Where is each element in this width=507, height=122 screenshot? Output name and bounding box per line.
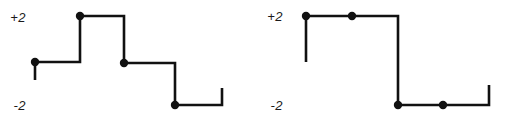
sample-dot — [394, 101, 402, 109]
sample-dot — [348, 12, 356, 20]
axis-label-minus-two-left: -2 — [13, 98, 26, 113]
sample-dot-group-left — [31, 12, 179, 109]
figure-canvas: +2 -2 +2 -2 — [0, 0, 507, 122]
sample-dot-group-right — [302, 12, 447, 109]
axis-label-plus-two-left: +2 — [10, 10, 26, 25]
sample-dot — [31, 58, 39, 66]
sample-dot — [120, 59, 128, 67]
waveform-diagram: +2 -2 +2 -2 — [0, 0, 507, 122]
axis-label-plus-two-right: +2 — [267, 9, 283, 24]
sample-dot — [76, 12, 84, 20]
staircase-path-left — [35, 16, 222, 105]
sample-dot — [171, 101, 179, 109]
staircase-path-right — [306, 16, 489, 105]
sample-dot — [302, 12, 310, 20]
axis-label-minus-two-right: -2 — [270, 98, 283, 113]
panel-right-waveform: +2 -2 — [267, 9, 489, 113]
panel-left-waveform: +2 -2 — [10, 10, 222, 113]
sample-dot — [439, 101, 447, 109]
